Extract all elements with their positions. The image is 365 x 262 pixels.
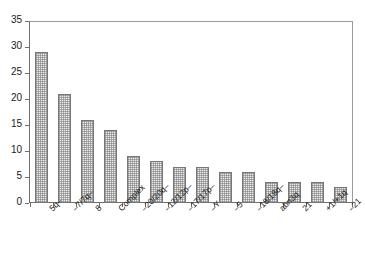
bar (58, 94, 71, 203)
x-axis-label: –21 (346, 206, 353, 213)
y-axis-tick-label: 5 (16, 170, 22, 181)
x-axis-labels: 5q––7/7q–8Complex–20/20q––12/12p––17/17p… (30, 206, 352, 262)
x-axis-label: –Y (208, 206, 215, 213)
y-axis-tick-mark (25, 203, 29, 204)
x-axis-label: –12/12p– (162, 206, 169, 213)
x-axis-label: +1/+1q (323, 206, 330, 213)
y-axis-tick-label: 25 (11, 66, 22, 77)
x-axis-label: abn3q (277, 206, 284, 213)
y-axis-tick-label: 20 (11, 92, 22, 103)
bar (104, 130, 117, 203)
bar-chart: 05101520253035 5q––7/7q–8Complex–20/20q–… (0, 0, 365, 262)
bar-slot (76, 21, 99, 203)
bar-slot (145, 21, 168, 203)
y-axis-tick-label: 0 (16, 196, 22, 207)
x-axis-label: –17/17p– (185, 206, 192, 213)
bar-slot (214, 21, 237, 203)
bar (242, 172, 255, 203)
bar-slot (122, 21, 145, 203)
bar-slot (168, 21, 191, 203)
y-axis: 05101520253035 (0, 21, 29, 203)
bar-slot (260, 21, 283, 203)
x-axis-label: Complex (116, 206, 123, 213)
y-axis-tick-label: 30 (11, 40, 22, 51)
x-axis-label: –5 (231, 206, 238, 213)
bar-slot (329, 21, 352, 203)
x-axis-label: –7/7q– (70, 206, 77, 213)
y-axis-tick-label: 15 (11, 118, 22, 129)
bar (35, 52, 48, 203)
bar-series (30, 21, 352, 203)
y-axis-tick-label: 10 (11, 144, 22, 155)
x-axis-label: 21 (300, 206, 307, 213)
bar-slot (53, 21, 76, 203)
bar-slot (191, 21, 214, 203)
y-axis-tick-label: 35 (11, 14, 22, 25)
bar-slot (306, 21, 329, 203)
bar (219, 172, 232, 203)
bar (311, 182, 324, 203)
bar-slot (99, 21, 122, 203)
bar-slot (237, 21, 260, 203)
x-axis-label: –18/18q– (254, 206, 261, 213)
x-axis-label: 5q– (47, 206, 54, 213)
x-axis-label: 8 (93, 206, 100, 213)
x-axis-label: –20/20q– (139, 206, 146, 213)
bar-slot (283, 21, 306, 203)
bar-slot (30, 21, 53, 203)
